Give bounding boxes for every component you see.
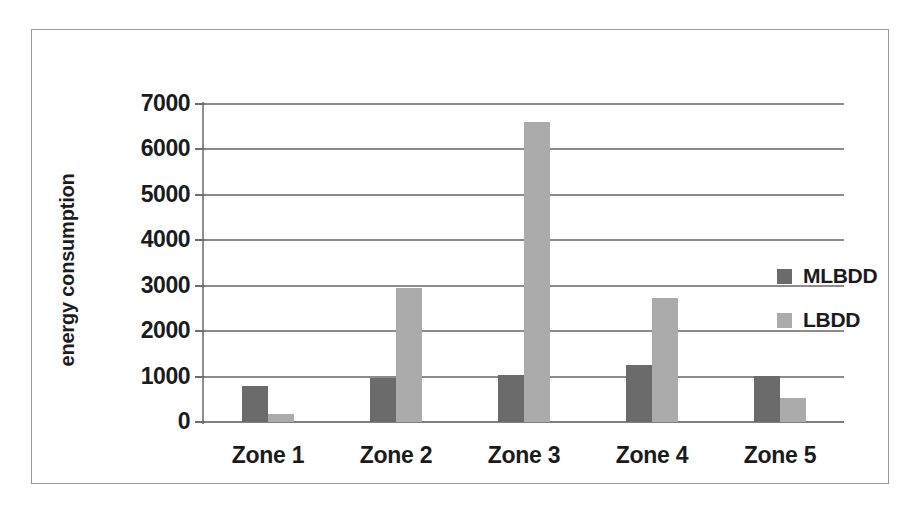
y-tick-mark-0	[195, 421, 205, 423]
y-tick-mark-3000	[195, 285, 205, 287]
y-tick-label-0: 0	[98, 410, 190, 433]
legend-label: MLBDD	[803, 264, 877, 288]
bar-mlbdd[interactable]	[242, 386, 268, 422]
y-axis-tick-labels: 01000200030004000500060007000	[90, 30, 190, 483]
bar-lbdd[interactable]	[780, 398, 806, 422]
x-tick-label-2: Zone 2	[332, 442, 460, 469]
bar-mlbdd[interactable]	[498, 375, 524, 422]
chart-frame: energy consumption 010002000300040005000…	[31, 29, 889, 484]
bar-group	[204, 104, 332, 422]
y-tick-mark-7000	[195, 103, 205, 105]
bar-lbdd[interactable]	[396, 288, 422, 422]
chart-legend: MLBDDLBDD	[777, 254, 897, 342]
y-tick-mark-5000	[195, 194, 205, 196]
bar-group	[332, 104, 460, 422]
y-tick-mark-1000	[195, 376, 205, 378]
y-tick-label-5000: 5000	[98, 183, 190, 206]
legend-entry-lbdd[interactable]: LBDD	[777, 298, 897, 342]
x-tick-label-4: Zone 4	[588, 442, 716, 469]
x-axis-tick-labels: Zone 1Zone 2Zone 3Zone 4Zone 5	[204, 442, 844, 482]
y-axis-title: energy consumption	[56, 0, 86, 130]
legend-swatch-icon	[777, 269, 792, 284]
y-tick-mark-4000	[195, 239, 205, 241]
legend-swatch-icon	[777, 313, 792, 328]
bar-mlbdd[interactable]	[754, 376, 780, 422]
bar-mlbdd[interactable]	[370, 378, 396, 422]
x-tick-label-1: Zone 1	[204, 442, 332, 469]
bar-mlbdd[interactable]	[626, 365, 652, 422]
y-tick-label-2000: 2000	[98, 319, 190, 342]
y-tick-label-3000: 3000	[98, 274, 190, 297]
bar-lbdd[interactable]	[524, 122, 550, 422]
y-tick-mark-2000	[195, 330, 205, 332]
bar-group	[460, 104, 588, 422]
y-tick-mark-6000	[195, 148, 205, 150]
bar-lbdd[interactable]	[652, 298, 678, 422]
y-tick-label-6000: 6000	[98, 137, 190, 160]
legend-entry-mlbdd[interactable]: MLBDD	[777, 254, 897, 298]
y-axis-title-label: energy consumption	[56, 130, 79, 410]
y-tick-label-1000: 1000	[98, 365, 190, 388]
x-tick-label-5: Zone 5	[716, 442, 844, 469]
y-tick-label-7000: 7000	[98, 92, 190, 115]
plot-area	[204, 104, 844, 422]
x-tick-label-3: Zone 3	[460, 442, 588, 469]
bar-group	[588, 104, 716, 422]
y-tick-label-4000: 4000	[98, 228, 190, 251]
legend-label: LBDD	[803, 308, 860, 332]
bar-lbdd[interactable]	[268, 414, 294, 422]
